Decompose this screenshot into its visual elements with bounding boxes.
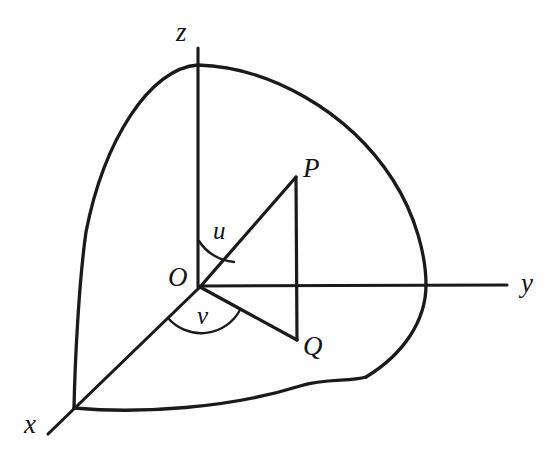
angle-v-label: v xyxy=(197,303,208,328)
z-axis-label: z xyxy=(176,19,187,46)
x-axis-label: x xyxy=(24,411,36,438)
segment-PQ xyxy=(296,177,297,340)
bottom-equatorial-arc xyxy=(74,377,366,410)
angle-arc-u xyxy=(199,241,234,262)
x-axis xyxy=(48,287,200,434)
y-axis-label: y xyxy=(521,270,533,297)
angle-u-label: u xyxy=(213,218,226,243)
point-q-label: Q xyxy=(303,333,323,360)
y-axis xyxy=(200,285,507,286)
lower-right-limb-arc xyxy=(366,285,426,377)
point-p-label: P xyxy=(303,155,320,182)
origin-label: O xyxy=(168,264,188,291)
left-meridian-arc xyxy=(74,65,198,408)
spherical-coordinates-figure: z y x O P Q u v xyxy=(0,0,555,458)
diagram-canvas xyxy=(0,0,555,458)
